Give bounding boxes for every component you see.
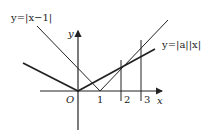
label-curve1: y=|x−1|	[10, 12, 52, 24]
label-y-axis: y	[67, 28, 74, 39]
label-curve2: y=|a||x|	[161, 39, 201, 51]
label-tick3: 3	[144, 94, 150, 105]
label-tick1: 1	[97, 94, 103, 105]
label-origin: O	[66, 94, 74, 105]
label-x-axis: x	[157, 95, 163, 106]
graph-canvas: y=|x−1| y=|a||x| y x O 1 2 3	[0, 0, 214, 137]
curve-abs-a-abs-x	[23, 49, 155, 91]
label-tick2: 2	[124, 94, 130, 105]
